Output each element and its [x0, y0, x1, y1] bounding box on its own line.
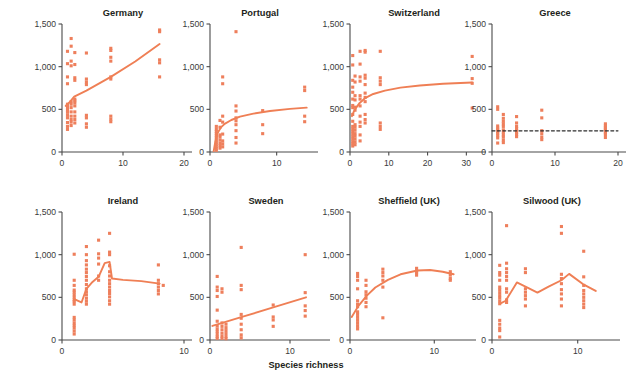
- fit-line: [214, 108, 307, 152]
- data-point: [303, 89, 306, 92]
- data-point: [505, 267, 508, 270]
- data-point: [359, 98, 362, 101]
- data-point: [498, 264, 501, 267]
- data-point: [524, 267, 527, 270]
- data-point: [221, 82, 224, 85]
- data-point: [356, 313, 359, 316]
- data-point: [353, 129, 356, 132]
- data-point: [108, 295, 111, 298]
- data-point: [505, 224, 508, 227]
- data-point: [157, 263, 160, 266]
- data-point: [304, 309, 307, 312]
- data-point: [240, 323, 243, 326]
- data-point: [381, 274, 384, 277]
- plot-area-greece: 05001,0001,50001020: [452, 8, 630, 178]
- data-point: [234, 129, 237, 132]
- y-tick-label: 0: [51, 147, 56, 157]
- data-point: [220, 287, 223, 290]
- data-point: [364, 279, 367, 282]
- x-tick-label: 10: [384, 158, 394, 168]
- data-point: [359, 139, 362, 142]
- data-points: [73, 232, 165, 336]
- data-point: [221, 139, 224, 142]
- y-tick-label: 1,000: [322, 250, 344, 260]
- x-tick-label: 0: [60, 346, 65, 356]
- data-point: [97, 257, 100, 260]
- data-point: [66, 125, 69, 128]
- data-point: [498, 279, 501, 282]
- data-point: [70, 121, 73, 124]
- y-tick-label: 1,000: [464, 62, 486, 72]
- data-points: [66, 28, 161, 131]
- data-point: [73, 51, 76, 54]
- data-point: [356, 279, 359, 282]
- data-points: [356, 267, 452, 331]
- data-point: [304, 291, 307, 294]
- data-points: [496, 105, 607, 144]
- data-point: [157, 292, 160, 295]
- data-point: [356, 275, 359, 278]
- data-point: [261, 123, 264, 126]
- data-point: [97, 263, 100, 266]
- data-point: [220, 337, 223, 340]
- data-point: [85, 263, 88, 266]
- data-point: [158, 58, 161, 61]
- data-point: [415, 274, 418, 277]
- data-point: [604, 136, 607, 139]
- data-point: [356, 322, 359, 325]
- x-tick-label: 0: [490, 346, 495, 356]
- data-point: [240, 333, 243, 336]
- data-point: [221, 145, 224, 148]
- y-tick-label: 1,500: [182, 207, 204, 217]
- data-point: [109, 60, 112, 63]
- data-point: [109, 120, 112, 123]
- x-tick-label: 10: [550, 158, 560, 168]
- x-tick-label: 10: [118, 158, 128, 168]
- data-point: [85, 51, 88, 54]
- data-point: [109, 49, 112, 52]
- data-point: [505, 279, 508, 282]
- data-point: [502, 125, 505, 128]
- fit-line: [66, 44, 160, 106]
- y-tick-label: 1,000: [322, 62, 344, 72]
- data-point: [381, 286, 384, 289]
- data-point: [66, 62, 69, 65]
- data-point: [496, 108, 499, 111]
- data-point: [234, 141, 237, 144]
- data-point: [73, 279, 76, 282]
- data-point: [356, 299, 359, 302]
- data-point: [524, 291, 527, 294]
- data-point: [505, 271, 508, 274]
- data-point: [73, 101, 76, 104]
- data-point: [560, 304, 563, 307]
- data-point: [364, 100, 367, 103]
- data-point: [73, 63, 76, 66]
- data-point: [70, 103, 73, 106]
- data-point: [560, 232, 563, 235]
- data-point: [240, 288, 243, 291]
- plot-area-silwood-uk: 05001,0001,500010: [452, 196, 626, 366]
- data-point: [359, 75, 362, 78]
- data-point: [97, 239, 100, 242]
- data-point: [97, 252, 100, 255]
- data-point: [109, 56, 112, 59]
- y-tick-label: 500: [190, 292, 205, 302]
- data-point: [66, 128, 69, 131]
- data-point: [304, 304, 307, 307]
- y-tick-label: 0: [339, 147, 344, 157]
- data-point: [353, 98, 356, 101]
- data-point: [353, 126, 356, 129]
- data-point: [356, 319, 359, 322]
- data-point: [498, 288, 501, 291]
- y-tick-label: 0: [199, 147, 204, 157]
- data-point: [364, 113, 367, 116]
- data-point: [582, 292, 585, 295]
- data-points: [215, 30, 306, 152]
- data-point: [157, 289, 160, 292]
- data-point: [85, 245, 88, 248]
- data-point: [540, 138, 543, 141]
- data-point: [261, 132, 264, 135]
- data-point: [70, 124, 73, 127]
- data-point: [157, 286, 160, 289]
